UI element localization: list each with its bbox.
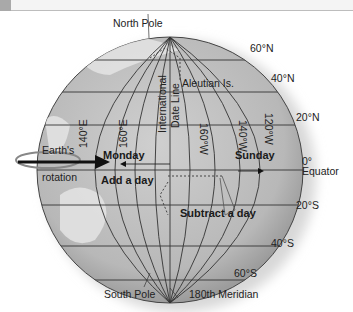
lon-160e: 160°E — [118, 119, 129, 148]
date-line-label-1: International — [157, 75, 168, 133]
meridian-180-label: 180th Meridian — [189, 289, 258, 300]
lat-20n: 20°N — [296, 112, 319, 123]
subtract-day-label: Subtract a day — [180, 208, 256, 219]
globe-diagram — [0, 0, 353, 312]
lon-160w: 160°W — [199, 123, 210, 155]
rotation-label-2: rotation — [42, 172, 77, 183]
lat-40s: 40°S — [271, 238, 294, 249]
sunday-label: Sunday — [235, 150, 275, 161]
south-pole-label: South Pole — [104, 289, 155, 300]
monday-label: Monday — [103, 150, 145, 161]
lat-60n: 60°N — [250, 43, 273, 54]
rotation-label-1: Earth's — [42, 145, 74, 156]
lat-20s: 20°S — [296, 200, 319, 211]
equator-label: Equator — [302, 166, 339, 177]
lon-140e: 140°E — [78, 119, 89, 148]
aleutian-label: Aleutian Is. — [182, 78, 234, 89]
lon-140w: 140°W — [238, 120, 249, 152]
north-pole-label: North Pole — [113, 18, 163, 29]
lon-120w: 120°W — [264, 113, 275, 145]
lat-60s: 60°S — [234, 268, 257, 279]
add-day-label: Add a day — [101, 175, 154, 186]
date-line-label-2: Date Line — [170, 83, 181, 128]
lat-40n: 40°N — [271, 73, 294, 84]
